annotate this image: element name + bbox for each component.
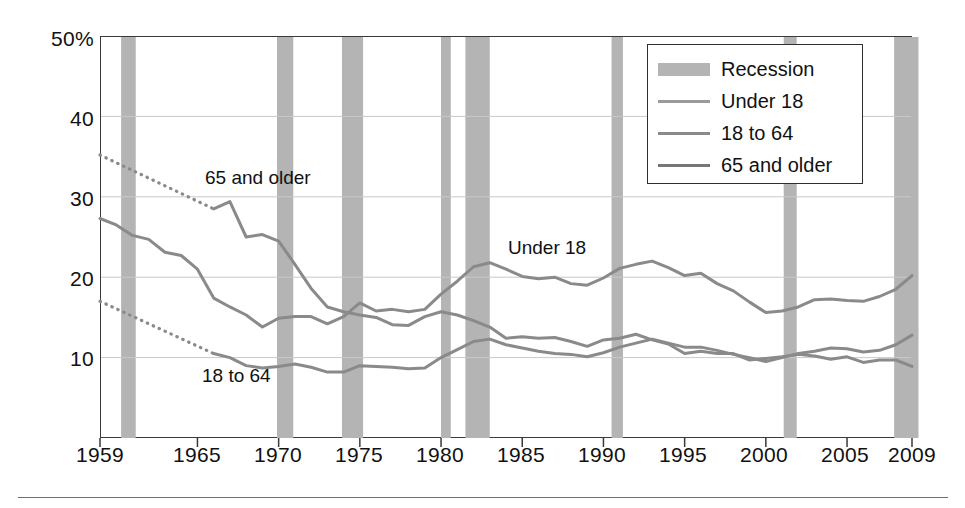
x-axis-tick-label: 1990: [562, 444, 642, 466]
legend-item-65-and-older: 65 and older: [658, 149, 862, 181]
line-swatch-icon: [658, 164, 710, 167]
legend-label: 18 to 64: [721, 123, 793, 143]
legend-item-recession: Recession: [658, 53, 862, 85]
recession-band: [277, 37, 293, 438]
legend-item-under-18: Under 18: [658, 85, 862, 117]
x-axis-tick-label: 1975: [319, 444, 399, 466]
recession-band: [121, 37, 136, 438]
recession-band: [465, 37, 489, 438]
x-axis-tick-label: 1959: [60, 444, 140, 466]
poverty-rate-chart-figure: 50% 40 30 20 10 65 and older Under 18 18…: [0, 0, 965, 508]
estimated-series-line: [100, 155, 214, 209]
estimated-series-line: [100, 301, 214, 353]
recession-swatch-icon: [658, 63, 710, 76]
x-axis-tick-label: 2009: [872, 444, 952, 466]
recession-band: [894, 37, 918, 438]
footer-divider: [18, 497, 948, 498]
annotation-18-to-64: 18 to 64: [202, 366, 271, 386]
annotation-under-18: Under 18: [508, 238, 586, 258]
x-axis-tick-label: 1995: [643, 444, 723, 466]
x-axis-tick-label: 1965: [157, 444, 237, 466]
chart-legend: Recession Under 18 18 to 64 65 and older: [647, 44, 863, 184]
estimated-series-lines: [100, 155, 214, 354]
legend-label: 65 and older: [721, 155, 832, 175]
legend-item-18-to-64: 18 to 64: [658, 117, 862, 149]
x-axis-tick-label: 2000: [724, 444, 804, 466]
series-line: [214, 202, 912, 367]
annotation-65-and-older: 65 and older: [205, 168, 311, 188]
x-axis-tick-label: 1980: [400, 444, 480, 466]
x-axis-tick-label: 1985: [481, 444, 561, 466]
legend-label: Recession: [721, 59, 814, 79]
x-axis-tick-label: 1970: [238, 444, 318, 466]
recession-band: [612, 37, 623, 438]
line-swatch-icon: [658, 132, 710, 135]
legend-label: Under 18: [721, 91, 803, 111]
recession-band: [441, 37, 451, 438]
line-swatch-icon: [658, 100, 710, 103]
recession-band: [342, 37, 363, 438]
